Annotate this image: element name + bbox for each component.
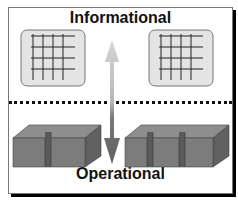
diagram-frame: Informational Operational xyxy=(8,7,233,194)
grid-table-icon xyxy=(149,30,213,86)
grid-table-icon xyxy=(21,30,85,86)
block-two-slots-icon xyxy=(125,125,229,167)
block-one-slot-icon xyxy=(13,125,101,167)
bidirectional-arrow-icon xyxy=(104,40,120,164)
